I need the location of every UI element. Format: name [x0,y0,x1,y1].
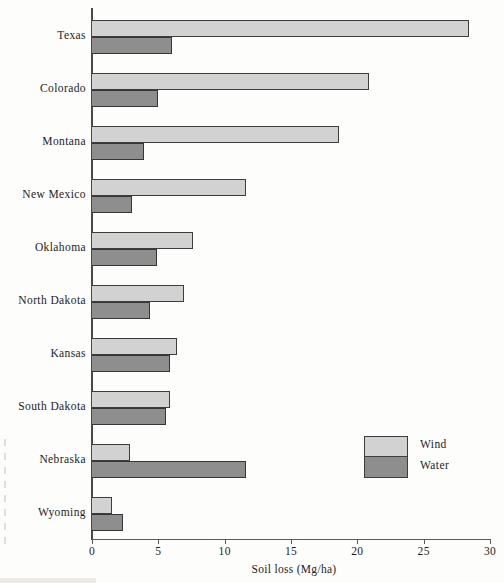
bar-water-north-dakota [92,302,150,319]
bar-water-new-mexico [92,196,132,213]
bar-water-kansas [92,355,170,372]
legend-swatch-box [364,436,408,478]
x-tick-mark [291,539,292,544]
x-tick-label: 25 [418,545,430,557]
legend-swatch-water [365,457,407,477]
bar-wind-colorado [92,73,369,90]
category-axis-labels: TexasColoradoMontanaNew MexicoOklahomaNo… [0,8,86,539]
category-label-south-dakota: South Dakota [0,400,86,412]
bar-water-oklahoma [92,249,157,266]
category-label-north-dakota: North Dakota [0,294,86,306]
bar-wind-north-dakota [92,285,184,302]
category-label-colorado: Colorado [0,82,86,94]
bar-wind-nebraska [92,444,130,461]
x-tick-label: 30 [484,545,496,557]
x-tick-label: 10 [219,545,231,557]
category-label-montana: Montana [0,135,86,147]
bar-wind-montana [92,126,339,143]
x-tick-label: 0 [89,545,95,557]
bar-water-nebraska [92,461,246,478]
bar-water-colorado [92,90,158,107]
soil-loss-bar-chart-figure: TexasColoradoMontanaNew MexicoOklahomaNo… [0,0,504,583]
category-label-wyoming: Wyoming [0,506,86,518]
x-tick-mark [158,539,159,544]
bar-water-montana [92,143,144,160]
x-tick-label: 15 [285,545,297,557]
bar-wind-south-dakota [92,391,170,408]
category-label-oklahoma: Oklahoma [0,241,86,253]
bar-wind-wyoming [92,497,112,514]
x-axis-title: Soil loss (Mg/ha) [0,563,504,575]
x-tick-label: 5 [155,545,161,557]
x-axis-title-text: Soil loss (Mg/ha) [252,563,337,575]
x-tick-mark [424,539,425,544]
legend-label-wind: Wind [420,438,447,450]
bar-water-south-dakota [92,408,166,425]
bar-wind-kansas [92,338,177,355]
x-tick-mark [357,539,358,544]
x-tick-label: 20 [351,545,363,557]
x-tick-mark [92,539,93,544]
legend-label-water: Water [420,459,449,471]
bar-water-wyoming [92,514,123,531]
legend-swatch-wind [365,437,407,457]
bar-wind-oklahoma [92,232,193,249]
scan-bottom-edge-artifact [0,578,96,583]
category-label-new-mexico: New Mexico [0,188,86,200]
bar-water-texas [92,37,172,54]
bar-wind-new-mexico [92,179,246,196]
category-label-texas: Texas [0,29,86,41]
x-tick-mark [225,539,226,544]
category-label-kansas: Kansas [0,347,86,359]
category-label-nebraska: Nebraska [0,453,86,465]
bar-wind-texas [92,20,469,37]
x-tick-mark [490,539,491,544]
